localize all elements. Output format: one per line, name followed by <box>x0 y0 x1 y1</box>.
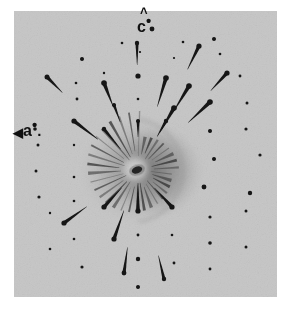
diffraction-spot <box>80 57 84 61</box>
diffraction-spot <box>73 238 76 241</box>
spot-core <box>111 236 116 241</box>
spot-core <box>186 83 192 89</box>
spot-streak-tail <box>73 120 98 140</box>
diffraction-spot <box>61 207 86 226</box>
spot-streak-tail <box>63 207 87 225</box>
spot-core <box>182 41 185 44</box>
a-star-arrow-icon: ◀ <box>13 126 23 139</box>
diffraction-spot <box>137 98 140 101</box>
diffraction-figure: ˄ c• ◀a•. <box>0 0 291 312</box>
diffraction-spot <box>121 42 124 45</box>
diffraction-spot <box>157 75 169 107</box>
diffraction-spot <box>245 246 248 249</box>
diffraction-spot <box>75 82 78 85</box>
spot-streak-tail <box>158 256 165 280</box>
spot-core <box>122 271 127 276</box>
diffraction-spot <box>187 43 201 69</box>
spot-core <box>136 119 140 123</box>
spot-core <box>171 105 177 111</box>
spot-core <box>209 268 212 271</box>
spot-core <box>121 42 124 45</box>
spot-core <box>73 144 75 146</box>
spot-core <box>162 277 166 281</box>
diffraction-spot <box>258 153 261 156</box>
diffraction-spot <box>171 234 174 237</box>
spot-core <box>135 208 140 213</box>
axis-label-c-star: ˄ c• <box>137 13 151 35</box>
diffraction-spot <box>135 41 139 65</box>
spot-core <box>208 241 212 245</box>
spot-core <box>76 98 79 101</box>
diffraction-spot <box>37 195 40 198</box>
spot-core <box>212 157 216 161</box>
diffraction-spot <box>208 215 211 218</box>
spot-core <box>164 119 168 123</box>
a-star-trailing-dot: . <box>37 122 41 139</box>
diffraction-spot <box>158 256 166 282</box>
diffraction-spot <box>208 241 212 245</box>
spot-core <box>37 144 40 147</box>
diffraction-spot <box>209 268 212 271</box>
diffraction-spot <box>49 248 52 251</box>
spot-core <box>169 204 174 209</box>
spot-core <box>80 265 83 268</box>
diffraction-spot <box>103 72 105 74</box>
spot-core <box>49 212 51 214</box>
spot-core <box>73 200 76 203</box>
spot-core <box>101 204 106 209</box>
spot-core <box>208 215 211 218</box>
spot-core <box>173 57 175 59</box>
spot-core <box>101 80 107 86</box>
spot-streak-tail <box>187 45 200 69</box>
spot-core <box>73 176 76 179</box>
spot-core <box>245 210 248 213</box>
spot-core <box>258 153 261 156</box>
diffraction-spot <box>71 118 98 139</box>
c-star-hat-icon: ˄ <box>140 4 148 17</box>
diffraction-spot <box>137 234 140 237</box>
spot-streak-tail <box>188 101 211 123</box>
a-star-letter: a <box>23 122 32 139</box>
diffraction-spot <box>37 144 40 147</box>
diffraction-spot <box>248 191 252 195</box>
diffraction-spot <box>212 37 216 41</box>
spot-core <box>135 73 140 78</box>
diffraction-spot <box>73 144 75 146</box>
spot-core <box>245 246 248 249</box>
spot-core <box>71 118 76 123</box>
c-star-letter: c <box>137 18 146 35</box>
diffraction-spot <box>45 75 63 93</box>
spot-core <box>139 51 141 53</box>
spot-core <box>207 99 213 105</box>
spot-core <box>239 75 242 78</box>
spot-core <box>35 170 38 173</box>
spot-core <box>61 220 66 225</box>
diffraction-spot <box>173 262 176 265</box>
diffraction-spot <box>182 41 185 44</box>
spot-core <box>244 127 247 130</box>
spot-core <box>73 238 76 241</box>
diffraction-spot <box>139 51 141 53</box>
spot-core <box>137 234 140 237</box>
diffraction-spot <box>246 102 249 105</box>
diffraction-spot <box>135 73 140 78</box>
spot-core <box>208 129 212 133</box>
spot-core <box>103 72 105 74</box>
spot-core <box>80 57 84 61</box>
diffraction-spot <box>136 285 140 289</box>
diffraction-spot <box>136 257 140 261</box>
spot-core <box>45 75 50 80</box>
spot-core <box>136 285 140 289</box>
diffraction-spot <box>73 176 76 179</box>
diffraction-spot <box>219 53 222 56</box>
axis-label-a-star: ◀a•. <box>13 117 41 139</box>
spot-core <box>248 191 252 195</box>
diffraction-spot <box>76 98 79 101</box>
spot-core <box>37 195 40 198</box>
spot-core <box>196 43 201 48</box>
spot-core <box>102 127 106 131</box>
spot-core <box>163 75 169 81</box>
diffraction-spot <box>208 129 212 133</box>
spot-streak-tail <box>157 77 168 106</box>
spot-core <box>246 102 249 105</box>
